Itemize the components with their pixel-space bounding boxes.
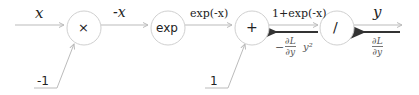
edge-label-x: x: [35, 4, 43, 22]
node-mul-label: ×: [78, 20, 89, 35]
constant-one: 1: [210, 74, 218, 88]
gradient-upstream-denominator: ∂y: [372, 47, 382, 57]
node-exp-label: exp: [156, 21, 178, 35]
gradient-downstream-sign: −: [275, 41, 284, 54]
edge-label-exp-neg-x: exp(-x): [190, 7, 228, 20]
edge-label-neg-x: -x: [113, 4, 126, 20]
gradient-downstream-factor: y²: [303, 41, 313, 52]
gradient-upstream-fraction: ∂L ∂y: [372, 36, 383, 57]
node-div-label: /: [333, 19, 338, 35]
edge-label-y: y: [373, 3, 381, 21]
constant-minus-one: -1: [37, 74, 49, 88]
node-add-label: +: [246, 19, 258, 35]
edge-label-one-plus-exp: 1+exp(-x): [272, 7, 326, 20]
gradient-downstream-fraction: ∂L ∂y: [285, 36, 296, 57]
gradient-downstream-denominator: ∂y: [285, 47, 295, 57]
gradient-downstream-numerator: ∂L: [285, 36, 296, 46]
gradient-upstream-numerator: ∂L: [372, 36, 383, 46]
